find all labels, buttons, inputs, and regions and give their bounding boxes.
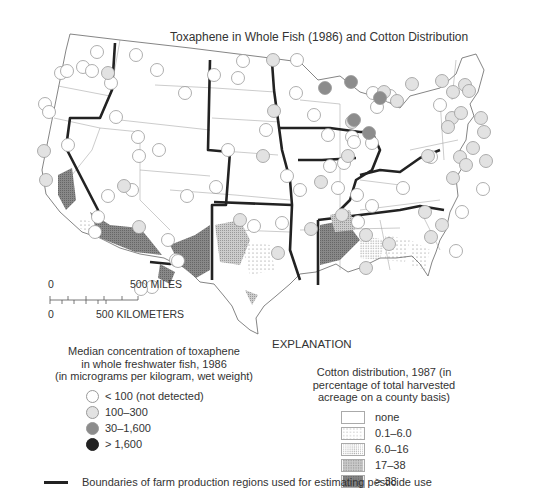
cotton-legend-item: 17–38: [341, 458, 558, 474]
map-title: Toxaphene in Whole Fish (1986) and Cotto…: [170, 30, 468, 44]
boundary-legend-label: Boundaries of farm production regions us…: [82, 476, 432, 488]
cotton-legend: Cotton distribution, 1987 (in percentage…: [304, 366, 558, 490]
fish-legend-item: < 100 (not detected): [86, 389, 264, 405]
fish-legend: Median concentration of toxaphene in who…: [44, 345, 264, 453]
scale-zero-miles: 0: [48, 278, 54, 290]
scale-bar: 0 500 MILES 0 500 KILOMETERS: [40, 278, 200, 328]
swatch-dense-dots-icon: [341, 443, 365, 456]
cotton-legend-item: 6.0–16: [341, 442, 558, 458]
swatch-none-icon: [341, 411, 365, 424]
cotton-legend-item: 0.1–6.0: [341, 426, 558, 442]
fish-legend-item: > 1,600: [86, 437, 264, 453]
cotton-legend-item: none: [341, 410, 558, 426]
fish-legend-header-1: Median concentration of toxaphene: [44, 345, 264, 358]
fish-legend-item: 30–1,600: [86, 421, 264, 437]
boundary-legend: Boundaries of farm production regions us…: [44, 476, 432, 488]
scale-km-label: 500 KILOMETERS: [96, 308, 184, 320]
thick-line-icon: [44, 481, 68, 484]
swatch-light-hatch-icon: [341, 459, 365, 472]
fish-legend-header-2: in whole freshwater fish, 1986: [44, 358, 264, 371]
circle-white-icon: [86, 390, 99, 403]
scale-zero-km: 0: [48, 308, 54, 320]
cotton-legend-header-2: percentage of total harvested: [304, 379, 464, 392]
circle-black-icon: [86, 438, 99, 451]
cotton-legend-header-1: Cotton distribution, 1987 (in: [304, 366, 464, 379]
scale-miles-label: 500 MILES: [130, 278, 182, 290]
swatch-sparse-dots-icon: [341, 427, 365, 440]
circle-light-gray-icon: [86, 406, 99, 419]
explanation-heading: EXPLANATION: [272, 338, 352, 350]
fish-legend-header-3: (in micrograms per kilogram, wet weight): [44, 370, 264, 383]
circle-gray-icon: [86, 422, 99, 435]
fish-legend-item: 100–300: [86, 405, 264, 421]
cotton-legend-header-3: acreage on a county basis): [304, 391, 464, 404]
